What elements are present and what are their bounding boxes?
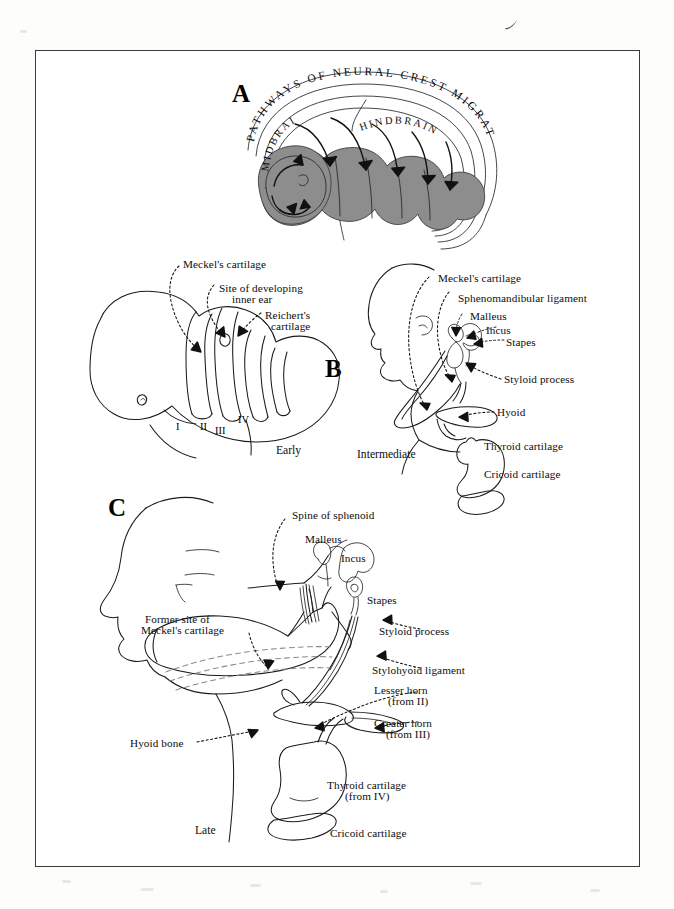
late-label-greater-horn-line2: (from III) bbox=[386, 728, 430, 740]
late-label-styloid-process: Styloid process bbox=[379, 625, 449, 637]
panel-c-drawing bbox=[0, 0, 674, 909]
late-label-hyoid-bone: Hyoid bone bbox=[130, 737, 184, 749]
late-label-incus: Incus bbox=[341, 552, 366, 564]
late-label-stylohyoid-ligament: Stylohyoid ligament bbox=[372, 664, 465, 676]
late-label-malleus: Malleus bbox=[305, 533, 342, 545]
late-label-thyroid-line2: (from IV) bbox=[345, 790, 390, 802]
late-label-stapes: Stapes bbox=[367, 594, 397, 606]
late-label-lesser-horn-line2: (from II) bbox=[388, 695, 428, 707]
late-label-former-site-line2: Meckel's cartilage bbox=[141, 624, 224, 636]
late-label-cricoid-cartilage: Cricoid cartilage bbox=[330, 827, 407, 839]
late-stage-caption: Late bbox=[195, 824, 216, 837]
late-label-spine-of-sphenoid: Spine of sphenoid bbox=[292, 509, 375, 521]
figure-page: A bbox=[0, 0, 674, 909]
